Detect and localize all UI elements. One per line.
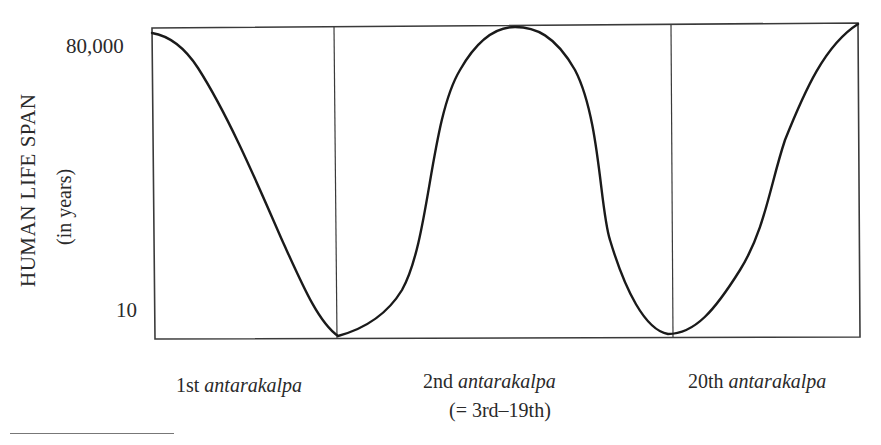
y-axis-subtitle: (in years) — [53, 169, 76, 245]
x-label-2nd: 2nd antarakalpa — [423, 370, 556, 393]
y-tick-min: 10 — [116, 298, 137, 323]
x-label-2nd-range: (= 3rd–19th) — [449, 399, 551, 422]
footnote-rule — [10, 433, 174, 434]
x-label-20th-prefix: 20th — [688, 370, 724, 392]
x-label-1st-term: antarakalpa — [204, 374, 302, 396]
x-label-20th: 20th antarakalpa — [688, 370, 826, 393]
life-span-curve — [152, 24, 858, 336]
x-label-1st: 1st antarakalpa — [176, 374, 302, 397]
x-label-1st-prefix: 1st — [176, 374, 199, 396]
x-label-20th-term: antarakalpa — [729, 370, 827, 392]
y-axis-title: HUMAN LIFE SPAN — [16, 94, 41, 287]
divider-1 — [334, 27, 337, 338]
divider-2 — [671, 25, 673, 337]
chart-frame — [152, 23, 860, 339]
x-label-2nd-prefix: 2nd — [423, 370, 453, 392]
y-tick-max: 80,000 — [66, 34, 124, 59]
x-label-2nd-term: antarakalpa — [458, 370, 556, 392]
